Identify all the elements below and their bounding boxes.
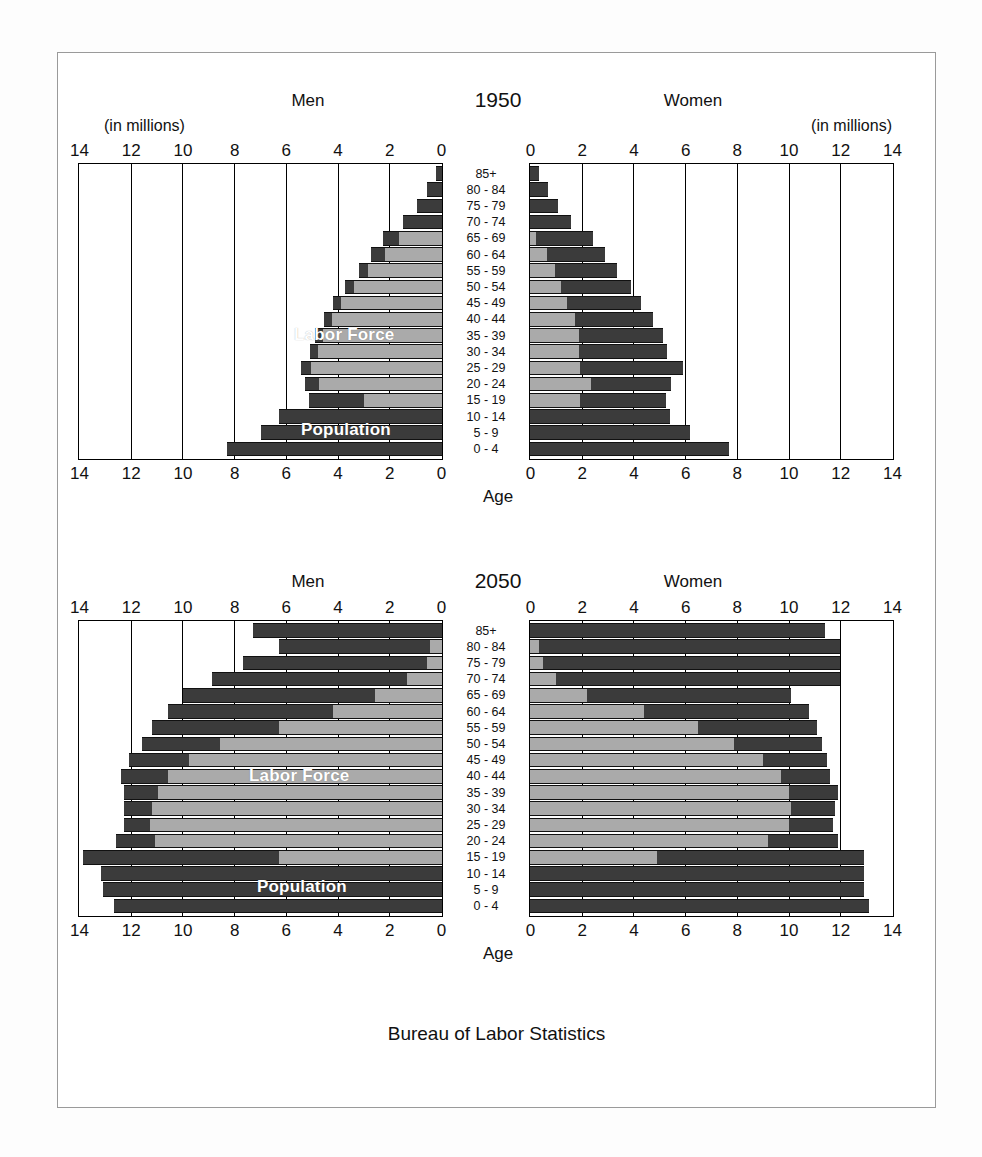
age-group-label: 85+ bbox=[443, 625, 529, 638]
pyramid-bar bbox=[124, 785, 442, 800]
x-tick-label: 4 bbox=[325, 464, 351, 484]
population-segment bbox=[243, 656, 442, 671]
labor-force-segment bbox=[530, 656, 543, 671]
labor-force-segment bbox=[530, 688, 587, 703]
pyramid-bar bbox=[403, 215, 442, 230]
x-tick-label: 2 bbox=[569, 464, 595, 484]
labor-force-segment bbox=[530, 344, 579, 359]
age-axis-caption-row-2050: Age bbox=[78, 943, 918, 967]
pyramid-bar bbox=[530, 296, 641, 311]
pyramid-bar bbox=[530, 263, 617, 278]
labor-force-segment bbox=[158, 785, 442, 800]
x-tick-label: 2 bbox=[569, 921, 595, 941]
labor-force-segment bbox=[530, 704, 644, 719]
age-group-label: 15 - 19 bbox=[443, 851, 529, 864]
pyramid-bar bbox=[530, 720, 817, 735]
population-pyramid-2050: Men 2050 Women 1412108642002468101214 La… bbox=[78, 572, 918, 967]
pyramid-bar bbox=[305, 377, 442, 392]
x-tick-label: 8 bbox=[222, 921, 248, 941]
labor-force-segment bbox=[530, 737, 734, 752]
x-tick-label: 14 bbox=[67, 464, 93, 484]
x-tick-label: 8 bbox=[724, 598, 750, 618]
x-tick-label: 6 bbox=[673, 141, 699, 161]
x-tick-label: 4 bbox=[325, 598, 351, 618]
pyramid-bar bbox=[436, 166, 442, 181]
pyramid-bar bbox=[530, 850, 864, 865]
labor-force-segment bbox=[333, 704, 442, 719]
pyramid-bar bbox=[530, 231, 593, 246]
pyramid-bar bbox=[530, 639, 840, 654]
labor-force-segment bbox=[430, 639, 442, 654]
x-tick-label: 4 bbox=[325, 921, 351, 941]
chart-title-1950: 1950 bbox=[438, 88, 558, 112]
labor-force-segment bbox=[152, 801, 442, 816]
x-tick-label: 0 bbox=[518, 141, 544, 161]
pyramid-bar bbox=[530, 166, 539, 181]
pyramid-bar bbox=[530, 312, 653, 327]
pyramid-bar bbox=[530, 866, 864, 881]
age-group-label: 5 - 9 bbox=[443, 427, 529, 440]
gridline bbox=[840, 164, 841, 459]
x-tick-label: 12 bbox=[828, 141, 854, 161]
population-segment bbox=[530, 215, 571, 230]
gridline bbox=[737, 164, 738, 459]
pyramid-bar bbox=[530, 442, 729, 457]
pyramid-bar bbox=[530, 899, 869, 914]
pyramid-bar bbox=[530, 656, 840, 671]
labor-force-segment bbox=[368, 263, 442, 278]
population-segment bbox=[530, 639, 840, 654]
population-segment bbox=[530, 166, 539, 181]
pyramid-bar bbox=[116, 834, 442, 849]
x-tick-label: 0 bbox=[518, 921, 544, 941]
labor-force-segment bbox=[530, 834, 768, 849]
x-tick-label: 8 bbox=[222, 598, 248, 618]
x-tick-label: 0 bbox=[518, 598, 544, 618]
pyramid-bar bbox=[530, 409, 670, 424]
labor-force-segment bbox=[318, 344, 442, 359]
age-group-label: 60 - 64 bbox=[443, 706, 529, 719]
pyramid-bar bbox=[333, 296, 442, 311]
pyramid-bar bbox=[530, 377, 671, 392]
men-label-1950: Men bbox=[248, 91, 368, 111]
men-panel-2050: Labor ForcePopulation bbox=[78, 620, 443, 917]
poster-canvas: Men 1950 Women (in millions) (in million… bbox=[57, 52, 936, 1108]
age-group-label: 25 - 29 bbox=[443, 819, 529, 832]
population-segment bbox=[530, 425, 690, 440]
age-label-column-1950: 85+80 - 8475 - 7970 - 7465 - 6960 - 6455… bbox=[443, 163, 529, 460]
population-pyramid-1950: Men 1950 Women (in millions) (in million… bbox=[78, 91, 918, 510]
x-tick-label: 14 bbox=[67, 598, 93, 618]
pyramid-bar bbox=[530, 280, 631, 295]
pyramid-bar bbox=[530, 672, 840, 687]
x-tick-label: 10 bbox=[170, 464, 196, 484]
population-segment bbox=[436, 166, 442, 181]
x-tick-label: 8 bbox=[724, 141, 750, 161]
age-group-label: 75 - 79 bbox=[443, 657, 529, 670]
pyramid-bar bbox=[417, 199, 442, 214]
age-group-label: 10 - 14 bbox=[443, 868, 529, 881]
population-segment bbox=[530, 182, 548, 197]
labor-force-segment bbox=[530, 312, 575, 327]
pyramid-bar bbox=[530, 328, 663, 343]
pyramid-bar bbox=[253, 623, 442, 638]
labor-force-segment bbox=[530, 818, 789, 833]
age-group-label: 60 - 64 bbox=[443, 249, 529, 262]
pyramid-bar bbox=[530, 704, 809, 719]
pyramid-bar bbox=[530, 344, 667, 359]
pyramid-bar bbox=[530, 215, 571, 230]
x-tick-label: 10 bbox=[776, 464, 802, 484]
x-tick-label: 2 bbox=[377, 921, 403, 941]
labor-force-segment bbox=[530, 639, 539, 654]
age-group-label: 10 - 14 bbox=[443, 411, 529, 424]
x-tick-label: 0 bbox=[429, 141, 455, 161]
age-group-label: 40 - 44 bbox=[443, 313, 529, 326]
women-label-2050: Women bbox=[633, 572, 753, 592]
gridline bbox=[685, 164, 686, 459]
pyramid-bar bbox=[530, 393, 666, 408]
pyramid-bar bbox=[530, 818, 833, 833]
population-segment bbox=[279, 639, 442, 654]
x-tick-label: 10 bbox=[776, 141, 802, 161]
x-tick-label: 6 bbox=[673, 464, 699, 484]
labor-force-segment bbox=[530, 328, 579, 343]
population-segment bbox=[530, 672, 840, 687]
pyramid-bar bbox=[309, 393, 442, 408]
